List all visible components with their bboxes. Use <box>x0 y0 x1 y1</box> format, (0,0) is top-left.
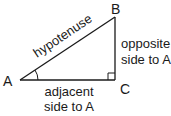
hypotenuse-label: hypotenuse <box>30 11 94 61</box>
vertex-b-label: B <box>111 1 120 17</box>
right-angle-marker <box>108 73 115 80</box>
vertex-c-label: C <box>120 81 130 97</box>
adjacent-label-line2: side to A <box>44 99 94 114</box>
opposite-label-line2: side to A <box>121 52 171 67</box>
adjacent-label-line1: adjacent <box>44 84 94 99</box>
vertex-a-label: A <box>3 73 13 89</box>
opposite-label-line1: opposite <box>121 36 170 51</box>
angle-a-arc <box>35 70 38 80</box>
right-triangle-diagram: A B C hypotenuse opposite side to A adja… <box>0 0 171 116</box>
